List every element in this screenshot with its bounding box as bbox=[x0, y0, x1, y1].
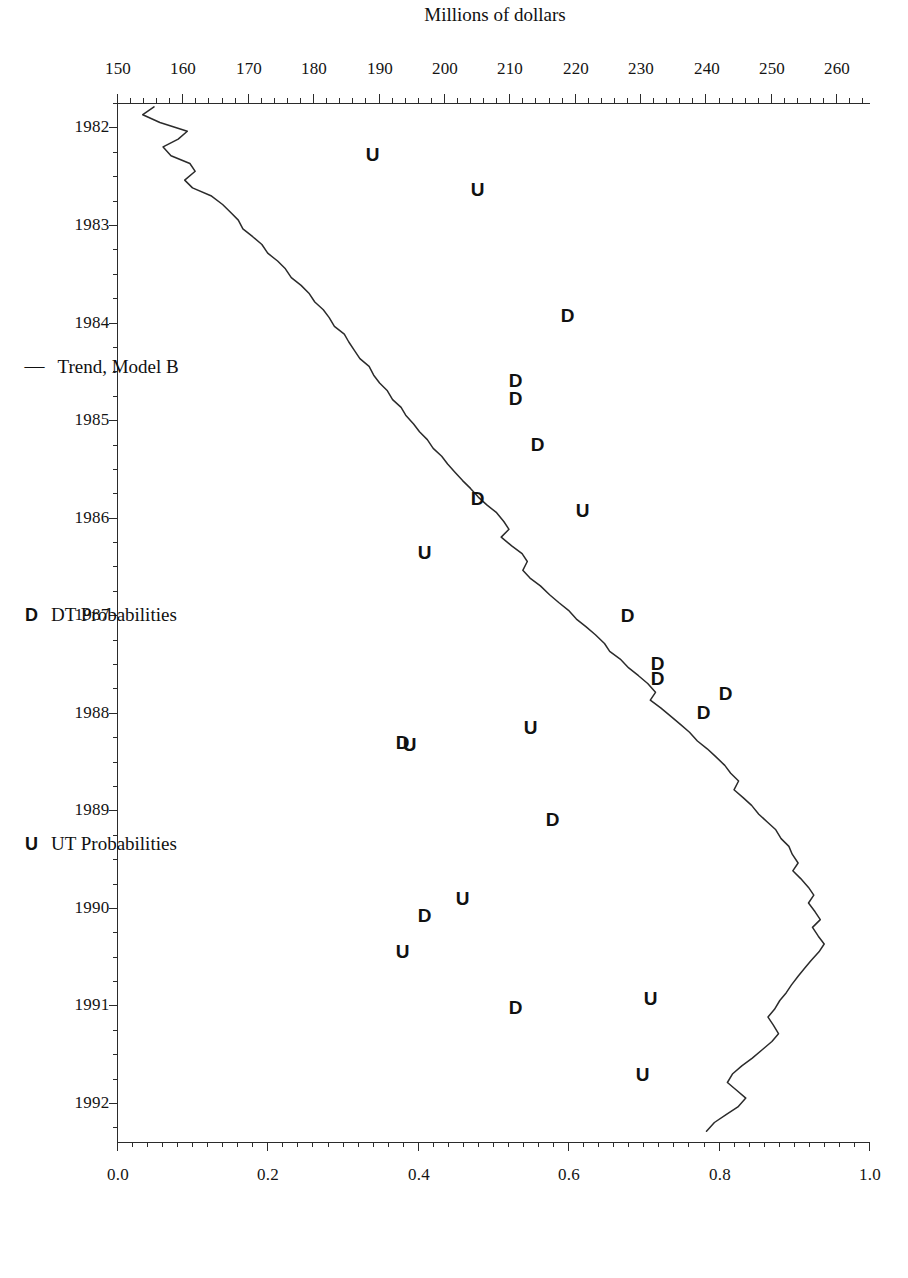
trend-line-layer bbox=[0, 0, 908, 1278]
dt-probability-marker: D bbox=[719, 684, 733, 703]
plot-area: 1982198319841985198619871988198919901991… bbox=[0, 0, 908, 1278]
dt-probability-marker: D bbox=[508, 388, 522, 407]
ut-probability-marker: U bbox=[418, 543, 432, 562]
dt-probability-marker: D bbox=[546, 810, 560, 829]
ut-probability-marker: U bbox=[636, 1064, 650, 1083]
ut-probability-marker: U bbox=[456, 889, 470, 908]
dt-probability-marker: D bbox=[531, 435, 545, 454]
legend-item: —Trend, Model B bbox=[25, 355, 179, 378]
rotated-figure-frame: 1982198319841985198619871988198919901991… bbox=[0, 0, 908, 1278]
legend-label: DT Probabilities bbox=[51, 604, 177, 625]
ut-probability-marker: U bbox=[523, 718, 537, 737]
ut-probability-marker: U bbox=[365, 145, 379, 164]
legend-item: DDT Probabilities bbox=[25, 604, 177, 626]
legend-item: UUT Probabilities bbox=[25, 833, 177, 855]
dt-probability-marker: D bbox=[418, 905, 432, 924]
legend-label: UT Probabilities bbox=[51, 833, 177, 854]
ut-probability-marker: U bbox=[403, 735, 417, 754]
trend-line-path bbox=[143, 107, 824, 1131]
legend-d-symbol: D bbox=[25, 605, 38, 625]
dt-probability-marker: D bbox=[696, 703, 710, 722]
legend-u-symbol: U bbox=[25, 834, 38, 854]
ut-probability-marker: U bbox=[471, 180, 485, 199]
dt-probability-marker: D bbox=[508, 998, 522, 1017]
dt-probability-marker: D bbox=[561, 305, 575, 324]
dt-probability-marker: D bbox=[621, 606, 635, 625]
chart-canvas: 1982198319841985198619871988198919901991… bbox=[0, 0, 908, 1278]
legend-label: Trend, Model B bbox=[58, 356, 179, 377]
dt-probability-marker: D bbox=[651, 668, 665, 687]
legend-line-swatch: — bbox=[25, 355, 45, 377]
ut-probability-marker: U bbox=[644, 988, 658, 1007]
ut-probability-marker: U bbox=[576, 501, 590, 520]
dt-probability-marker: D bbox=[471, 489, 485, 508]
ut-probability-marker: U bbox=[396, 942, 410, 961]
